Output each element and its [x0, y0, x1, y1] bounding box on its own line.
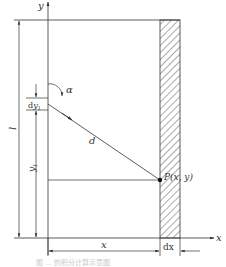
x-axis-label: x	[216, 232, 222, 243]
dx-label: dx	[163, 242, 174, 252]
angle-arc	[48, 84, 62, 96]
hatched-strip	[160, 20, 180, 238]
angle-label: α	[66, 84, 73, 95]
x-dimension-label: x	[101, 239, 107, 250]
distance-label: d	[89, 135, 95, 146]
point-p-label: P(x, y)	[163, 172, 193, 182]
dy1-label: dy1	[28, 101, 41, 111]
distance-arrow	[62, 113, 72, 120]
point-p	[158, 178, 162, 182]
diagram-canvas: y x l dy1 y1 α d P(x, y) x dx 图 … 的积分计算示…	[0, 0, 226, 267]
y-axis-label: y	[37, 0, 44, 11]
figure-caption: 图 … 的积分计算示意图	[36, 258, 110, 267]
length-label: l	[7, 127, 18, 130]
y1-label: y1	[27, 164, 38, 173]
